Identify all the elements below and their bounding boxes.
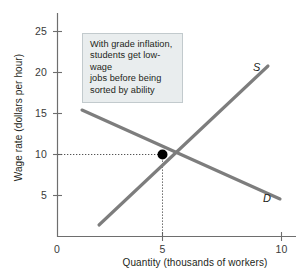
x-tick-label-10: 10 xyxy=(272,243,292,255)
wage-rate-supply-demand-chart: 25 20 15 10 5 0 5 10 Wage rate (dollars … xyxy=(0,0,307,275)
y-tick-label-20: 20 xyxy=(27,66,47,78)
y-tick-label-25: 25 xyxy=(27,25,47,37)
annotation-text: With grade inflation, students get low-w… xyxy=(90,39,176,96)
y-tick-label-15: 15 xyxy=(27,107,47,119)
equilibrium-point-marker xyxy=(158,150,168,160)
annotation-callout-box: With grade inflation, students get low-w… xyxy=(82,33,183,103)
y-axis-title: Wage rate (dollars per hour) xyxy=(13,33,24,203)
x-tick-label-5: 5 xyxy=(153,243,173,255)
demand-curve xyxy=(82,110,280,199)
demand-curve-label: D xyxy=(263,192,271,204)
x-axis-title: Quantity (thousands of workers) xyxy=(95,257,295,268)
supply-curve-label: S xyxy=(253,61,260,73)
y-tick-label-10: 10 xyxy=(27,148,47,160)
x-tick-label-0: 0 xyxy=(47,243,67,255)
y-tick-label-5: 5 xyxy=(27,189,47,201)
